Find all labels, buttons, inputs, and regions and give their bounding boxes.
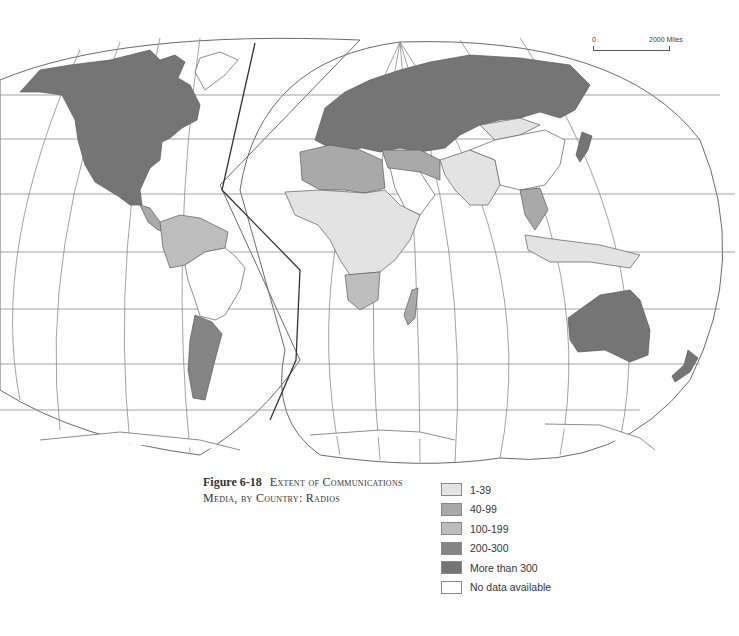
scale-start-label: 0 xyxy=(592,36,596,43)
region-north-africa xyxy=(300,145,385,193)
legend-swatch xyxy=(441,561,462,574)
region-indonesia xyxy=(525,235,640,268)
legend-item: 1-39 xyxy=(441,480,551,500)
region-south-africa xyxy=(345,272,380,310)
region-antarctica-west xyxy=(40,432,240,450)
figure-caption: Figure 6-18Extent of Communications Medi… xyxy=(203,474,433,506)
region-north-america xyxy=(20,50,200,205)
legend-item: No data available xyxy=(441,578,551,598)
legend: 1-39 40-99 100-199 200-300 More than 300… xyxy=(441,480,551,597)
legend-label: More than 300 xyxy=(470,562,538,574)
legend-label: 100-199 xyxy=(470,523,509,535)
legend-swatch xyxy=(441,503,462,516)
region-madagascar xyxy=(404,288,418,325)
region-sub-saharan-africa xyxy=(285,190,420,275)
legend-swatch xyxy=(441,483,462,496)
legend-label: 1-39 xyxy=(470,484,491,496)
legend-item: More than 300 xyxy=(441,558,551,578)
scale-bar: 0 2000 Miles xyxy=(592,36,722,56)
interruption-line xyxy=(222,43,300,420)
world-map xyxy=(0,0,739,470)
legend-swatch xyxy=(441,522,462,535)
scale-bar-line xyxy=(593,46,670,51)
figure-number: Figure 6-18 xyxy=(203,475,262,489)
region-argentina xyxy=(188,315,222,400)
scale-end-label: 2000 Miles xyxy=(649,36,683,43)
legend-label: No data available xyxy=(470,581,551,593)
legend-swatch xyxy=(441,542,462,555)
legend-item: 40-99 xyxy=(441,500,551,520)
legend-item: 200-300 xyxy=(441,539,551,559)
region-greenland xyxy=(195,52,238,90)
region-antarctica-east xyxy=(310,430,455,440)
region-japan xyxy=(576,132,592,162)
legend-swatch xyxy=(441,581,462,594)
legend-item: 100-199 xyxy=(441,519,551,539)
region-new-zealand xyxy=(672,350,698,382)
legend-label: 200-300 xyxy=(470,542,509,554)
region-australia xyxy=(568,290,650,362)
legend-label: 40-99 xyxy=(470,503,497,515)
